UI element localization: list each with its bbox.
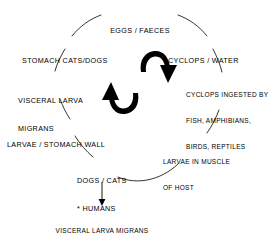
dead-end-outcome-line-1: VISCERAL LARVA MIGRANS xyxy=(33,227,171,236)
dead-end-outcome: VISCERAL LARVA MIGRANS * "DEAD END" xyxy=(33,210,171,238)
node-cyclops-ingested-line-2: FISH, AMPHIBIANS, xyxy=(186,117,280,126)
life-cycle-diagram: EGGS / FAECES CYCLOPS / WATER CYCLOPS IN… xyxy=(0,0,280,238)
node-eggs-faeces-line-1: EGGS / FAECES xyxy=(79,26,201,35)
node-visceral-larva-migrans-line-2: MIGRANS xyxy=(18,124,110,133)
node-dogs-cats-line-1: DOGS / CATS xyxy=(77,176,159,185)
node-stomach-cats-dogs-line-1: STOMACH CATS/DOGS xyxy=(22,56,137,65)
node-cyclops-water-line-1: CYCLOPS / WATER xyxy=(168,56,278,65)
node-larvae-muscle: LARVAE IN MUSCLE OF HOST xyxy=(163,141,255,210)
node-visceral-larva-migrans: VISCERAL LARVA MIGRANS xyxy=(18,78,110,152)
node-cyclops-ingested-line-1: CYCLOPS INGESTED BY xyxy=(186,91,280,100)
node-larvae-muscle-line-1: LARVAE IN MUSCLE xyxy=(163,158,255,167)
node-larvae-muscle-line-2: OF HOST xyxy=(163,184,255,193)
node-visceral-larva-migrans-line-1: VISCERAL LARVA xyxy=(18,96,110,105)
node-stomach-cats-dogs: STOMACH CATS/DOGS xyxy=(22,38,137,84)
